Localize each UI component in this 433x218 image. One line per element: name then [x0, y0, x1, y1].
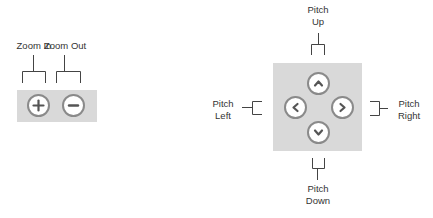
pitch-up-label: Pitch Up — [298, 4, 338, 28]
chevron-left-icon — [286, 98, 305, 117]
chevron-down-icon — [309, 123, 328, 142]
pitch-right-label: Pitch Right — [390, 98, 428, 122]
chevron-up-icon — [309, 74, 328, 93]
chevron-right-icon — [333, 98, 352, 117]
pitch-up-button[interactable] — [307, 72, 330, 95]
pitch-down-label: Pitch Down — [298, 183, 338, 207]
zoom-out-button[interactable] — [62, 94, 85, 117]
pitch-right-button[interactable] — [331, 96, 354, 119]
zoom-in-button[interactable] — [27, 94, 50, 117]
pitch-down-button[interactable] — [307, 121, 330, 144]
minus-icon — [64, 96, 83, 115]
pitch-left-label: Pitch Left — [205, 98, 241, 122]
pitch-left-button[interactable] — [284, 96, 307, 119]
zoom-out-label: Zoom Out — [44, 40, 86, 52]
plus-icon — [29, 96, 48, 115]
